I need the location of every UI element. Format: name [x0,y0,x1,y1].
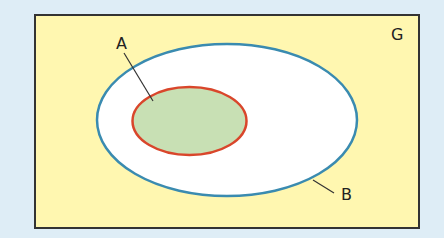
label-g: G [391,25,403,44]
set-a-ellipse [133,87,247,155]
label-b: B [341,185,352,204]
label-a: A [116,34,127,53]
venn-svg: A B G [0,0,444,238]
venn-diagram: A B G [0,0,444,238]
